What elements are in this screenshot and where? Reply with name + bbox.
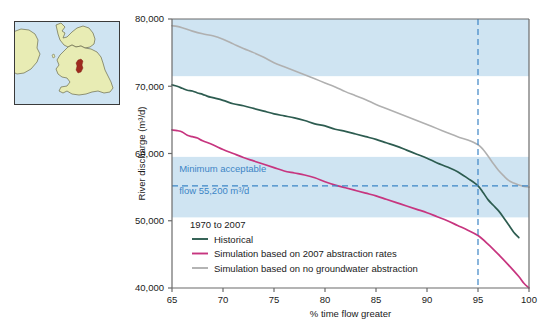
y-axis-title: River discharge (m³/d) xyxy=(136,107,147,201)
upper-blue-band xyxy=(172,19,529,76)
x-tick-label-70: 70 xyxy=(218,294,229,305)
x-tick-label-90: 90 xyxy=(422,294,433,305)
chart-area: Minimum acceptableflow 55,200 m³/d40,000… xyxy=(0,0,558,331)
y-tick-label-40000: 40,000 xyxy=(135,282,164,293)
legend-title: 1970 to 2007 xyxy=(190,219,245,230)
min-flow-label-line2: flow 55,200 m³/d xyxy=(179,185,249,196)
x-tick-label-75: 75 xyxy=(269,294,280,305)
legend-label-1: Simulation based on 2007 abstraction rat… xyxy=(214,248,397,259)
x-tick-label-95: 95 xyxy=(473,294,484,305)
min-flow-label-line1: Minimum acceptable xyxy=(179,163,266,174)
x-tick-label-100: 100 xyxy=(521,294,537,305)
river-discharge-flow-duration-chart: Minimum acceptableflow 55,200 m³/d40,000… xyxy=(0,0,558,331)
y-tick-label-70000: 70,000 xyxy=(135,81,164,92)
x-tick-label-80: 80 xyxy=(320,294,331,305)
legend-label-0: Historical xyxy=(214,234,253,245)
y-tick-label-80000: 80,000 xyxy=(135,13,164,24)
x-tick-label-65: 65 xyxy=(167,294,178,305)
figure-panel: Minimum acceptableflow 55,200 m³/d40,000… xyxy=(0,0,558,331)
legend-label-2: Simulation based on no groundwater abstr… xyxy=(214,263,418,274)
x-axis-title: % time flow greater xyxy=(310,308,391,319)
x-tick-label-85: 85 xyxy=(371,294,382,305)
y-tick-label-50000: 50,000 xyxy=(135,215,164,226)
